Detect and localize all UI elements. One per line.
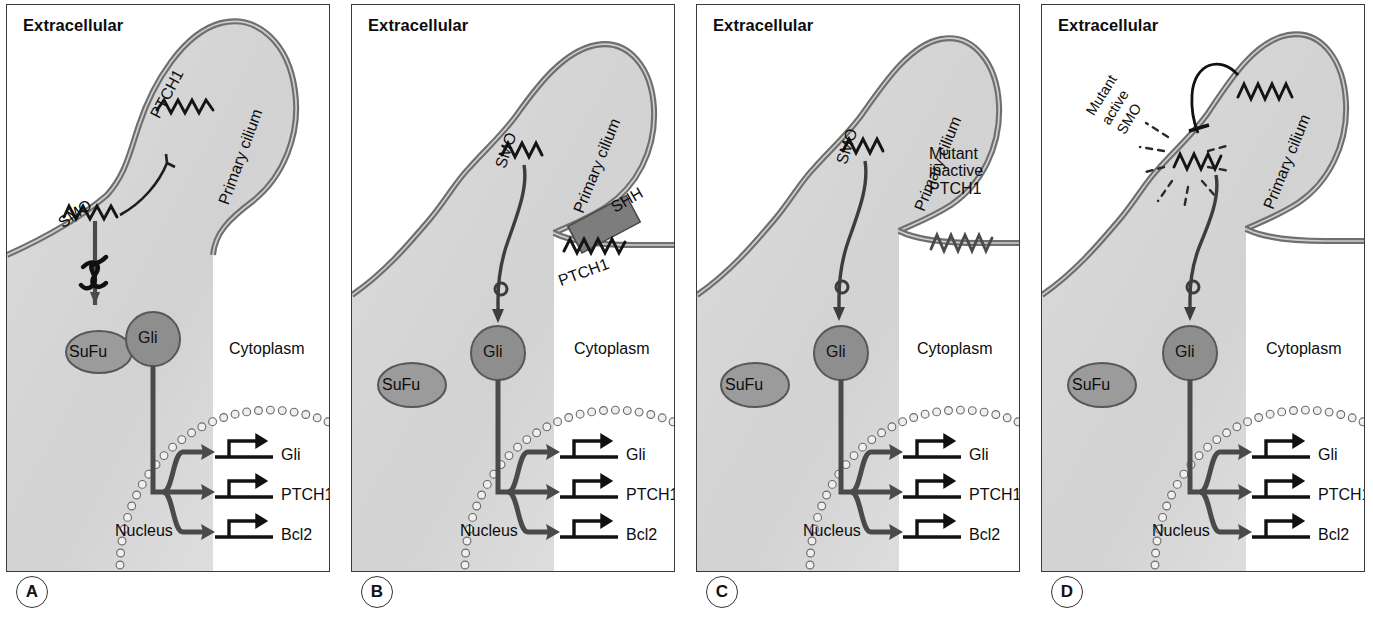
label-cytoplasm: Cytoplasm [574, 340, 650, 357]
panel-label-b: B [361, 576, 393, 608]
label-mutant-inactive-ptch1: Mutant inactive PTCH1 [929, 145, 983, 197]
gene-label-bcl2: Bcl2 [969, 526, 1000, 543]
panel-a-stage: Extracellular PTCH1 SMO Primary cilium S… [7, 5, 329, 571]
panel-c: Extracellular SMO Primary cilium Mutant … [696, 4, 1020, 572]
label-gli: Gli [826, 343, 846, 360]
gene-label-gli: Gli [1318, 446, 1338, 463]
hedgehog-pathway-figure: Extracellular PTCH1 SMO Primary cilium S… [0, 0, 1373, 620]
gene-label-bcl2: Bcl2 [1318, 526, 1349, 543]
label-gli: Gli [1175, 343, 1195, 360]
label-cytoplasm: Cytoplasm [1266, 340, 1342, 357]
label-sufu: SuFu [725, 376, 763, 393]
label-nucleus: Nucleus [115, 522, 173, 539]
panel-c-stage: Extracellular SMO Primary cilium Mutant … [697, 5, 1019, 571]
panel-label-a: A [16, 576, 48, 608]
label-sufu: SuFu [1072, 376, 1110, 393]
label-gli: Gli [138, 329, 158, 346]
gene-label-gli: Gli [626, 446, 646, 463]
label-nucleus: Nucleus [803, 522, 861, 539]
label-gli: Gli [483, 343, 503, 360]
label-extracellular: Extracellular [368, 17, 468, 35]
label-extracellular: Extracellular [23, 17, 123, 35]
gene-label-ptch1: PTCH1 [626, 486, 675, 503]
gene-label-ptch1: PTCH1 [281, 486, 330, 503]
label-cytoplasm: Cytoplasm [229, 340, 305, 357]
label-cytoplasm: Cytoplasm [917, 340, 993, 357]
gene-label-ptch1: PTCH1 [969, 486, 1020, 503]
gene-label-bcl2: Bcl2 [626, 526, 657, 543]
label-sufu: SuFu [69, 343, 107, 360]
gene-label-gli: Gli [969, 446, 989, 463]
panel-label-d: D [1051, 576, 1083, 608]
label-extracellular: Extracellular [1058, 17, 1158, 35]
label-nucleus: Nucleus [460, 522, 518, 539]
panel-a: Extracellular PTCH1 SMO Primary cilium S… [6, 4, 330, 572]
gene-label-bcl2: Bcl2 [281, 526, 312, 543]
panel-b-stage: Extracellular SMO Primary cilium SHH PTC… [352, 5, 674, 571]
panel-d: Extracellular Mutant active SMO Primary … [1041, 4, 1365, 572]
gene-label-gli: Gli [281, 446, 301, 463]
panel-label-c: C [706, 576, 738, 608]
panel-b: Extracellular SMO Primary cilium SHH PTC… [351, 4, 675, 572]
label-nucleus: Nucleus [1152, 522, 1210, 539]
label-sufu: SuFu [382, 376, 420, 393]
label-extracellular: Extracellular [713, 17, 813, 35]
panel-d-stage: Extracellular Mutant active SMO Primary … [1042, 5, 1364, 571]
gene-label-ptch1: PTCH1 [1318, 486, 1365, 503]
